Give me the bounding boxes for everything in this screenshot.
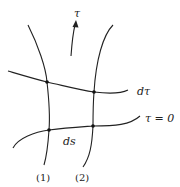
label-tau: τ [74,7,81,20]
label-curve-1: (1) [36,172,50,183]
intersection-point [47,128,51,132]
worldline-2 [83,25,113,167]
label-tau-zero: τ = 0 [145,112,174,125]
intersection-point [91,124,95,128]
intersection-point [45,80,49,84]
surface-dtau [8,71,128,93]
diagram-canvas: τ dτ τ = 0 ds (1) (2) [0,0,180,187]
surface-tau0 [13,116,140,148]
label-ds: ds [63,135,76,148]
label-dtau: dτ [137,85,151,98]
label-curve-2: (2) [75,172,89,183]
worldline-1 [28,25,49,165]
time-direction-arrow [71,25,75,56]
intersection-point [92,90,96,94]
arrow-head-icon [73,20,79,28]
